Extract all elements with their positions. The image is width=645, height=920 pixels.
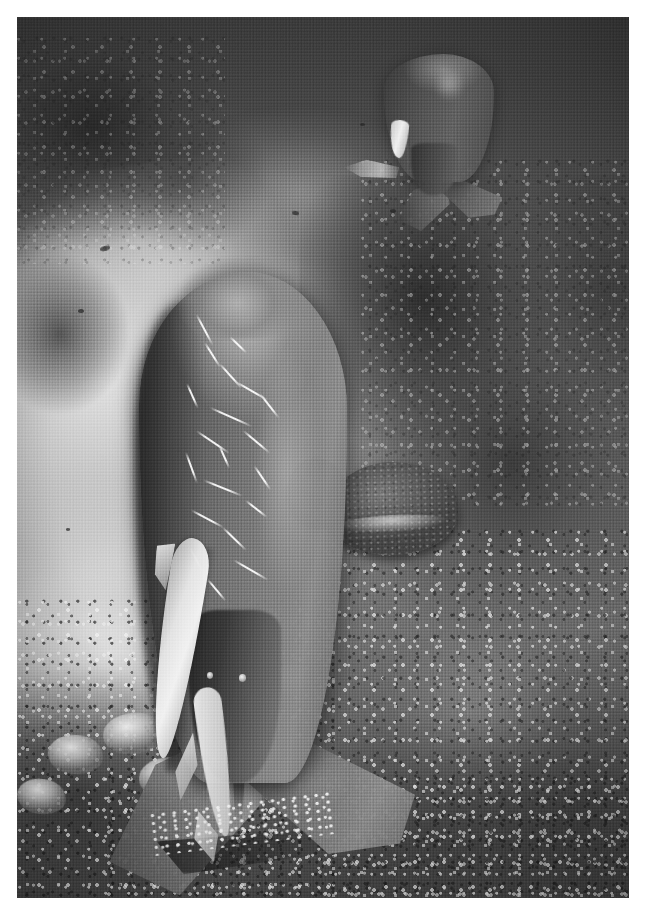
- suspended-particle: [66, 528, 70, 531]
- coral-rubble-upper-left: [17, 35, 225, 264]
- dugong-foreground-back-highlight: [256, 344, 331, 661]
- dugong-background: [384, 54, 494, 182]
- barnacle-spot: [239, 674, 246, 682]
- barnacle-spot: [207, 672, 213, 679]
- dugong-foreground-head: [177, 257, 302, 339]
- dugong-background-tail-stock: [411, 143, 457, 194]
- screenshot-root: [0, 0, 645, 920]
- suspended-particle: [78, 309, 84, 313]
- dugong-background-back-highlight: [433, 67, 470, 110]
- photograph-plate: [17, 17, 629, 898]
